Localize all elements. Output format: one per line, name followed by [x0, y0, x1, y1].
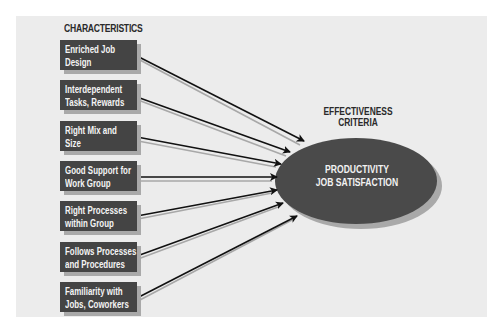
outcome-line2: JOB SATISFACTION [305, 176, 410, 189]
characteristic-label: Right Processes within Group [65, 204, 144, 229]
characteristic-box-6: Follows Processes and Procedures [60, 242, 137, 272]
characteristic-box-1: Enriched Job Design [60, 40, 137, 70]
characteristic-label: Enriched Job Design [65, 43, 144, 68]
characteristic-box-5: Right Processes within Group [60, 201, 137, 231]
arrow-7 [137, 216, 297, 298]
outcome-text: PRODUCTIVITY JOB SATISFACTION [290, 163, 424, 188]
characteristic-label: Interdependent Tasks, Rewards [65, 83, 144, 108]
characteristic-label: Good Support for Work Group [65, 164, 144, 189]
characteristic-label: Follows Processes and Procedures [65, 245, 144, 270]
arrow-1 [137, 56, 304, 141]
characteristic-box-3: Right Mix and Size [60, 121, 137, 151]
characteristic-label: Familiarity with Jobs, Coworkers [65, 285, 144, 310]
arrow-2 [137, 97, 290, 152]
arrow-6 [137, 203, 283, 256]
characteristic-box-2: Interdependent Tasks, Rewards [60, 80, 137, 110]
outcome-line1: PRODUCTIVITY [305, 163, 410, 176]
characteristic-box-4: Good Support for Work Group [60, 161, 137, 191]
characteristic-label: Right Mix and Size [65, 124, 144, 149]
characteristic-box-7: Familiarity with Jobs, Coworkers [60, 282, 137, 312]
